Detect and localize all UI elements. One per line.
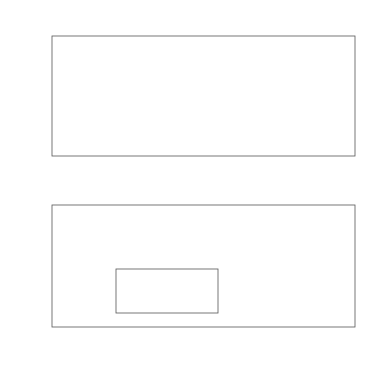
complexity-chart <box>52 205 355 327</box>
distortion-chart <box>52 36 355 156</box>
figure <box>0 0 384 375</box>
plot-frame <box>52 36 355 156</box>
legend <box>116 269 218 313</box>
legend-box <box>116 269 218 313</box>
